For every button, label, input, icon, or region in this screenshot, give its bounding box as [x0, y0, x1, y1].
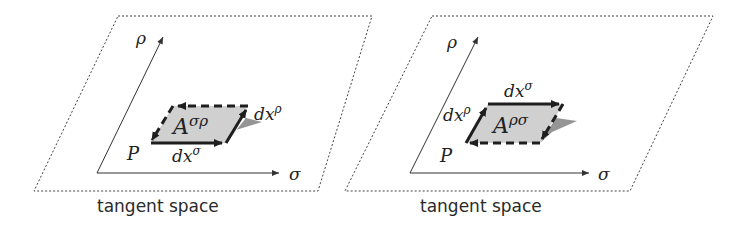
- area-label-base: A: [491, 113, 509, 138]
- right-panel: ρ σ P Aρσ dxσ dxρ tangent space: [345, 16, 713, 216]
- diagram-canvas: ρ σ P Aσρ dxσ dxρ tangent space ρ σ P: [0, 0, 745, 225]
- sigma-axis-label: σ: [289, 164, 301, 184]
- rho-axis-label: ρ: [446, 32, 457, 52]
- dx-sigma-sup: σ: [524, 79, 533, 93]
- dx-sigma-base: dx: [172, 146, 193, 166]
- dx-rho-base: dx: [443, 105, 464, 125]
- dx-rho-label: dxρ: [254, 102, 282, 124]
- area-label-sup: σρ: [189, 112, 208, 130]
- dx-sigma-base: dx: [504, 81, 525, 101]
- tangent-plane-outline: [34, 16, 372, 191]
- area-label-base: A: [171, 114, 189, 139]
- area-label-sup: ρσ: [508, 111, 529, 129]
- panel-caption: tangent space: [420, 196, 542, 216]
- dx-sigma-label: dxσ: [504, 79, 533, 101]
- dx-sigma-sup: σ: [192, 144, 201, 158]
- dx-rho-base: dx: [254, 104, 275, 124]
- point-p-label: P: [439, 145, 453, 166]
- left-panel: ρ σ P Aσρ dxσ dxρ tangent space: [34, 16, 372, 216]
- rho-axis-label: ρ: [135, 28, 146, 48]
- dx-rho-label: dxρ: [443, 103, 471, 125]
- dx-sigma-label: dxσ: [172, 144, 201, 166]
- sigma-axis-label: σ: [598, 164, 610, 184]
- dx-rho-sup: ρ: [462, 103, 470, 117]
- point-p-label: P: [126, 143, 140, 164]
- dx-rho-sup: ρ: [273, 102, 281, 116]
- panel-caption: tangent space: [97, 196, 219, 216]
